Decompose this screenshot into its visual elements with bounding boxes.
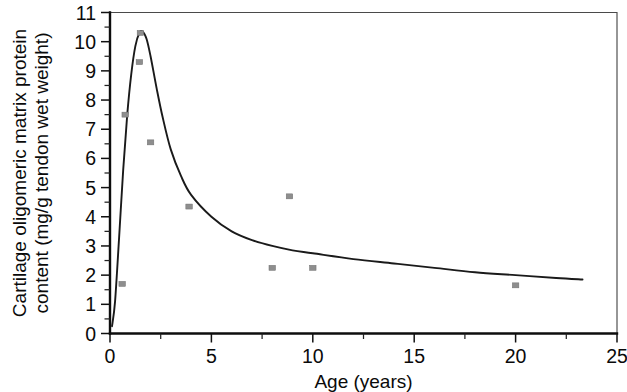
x-axis-tick-labels: 0510152025	[105, 345, 627, 367]
x-axis-tick-label: 25	[606, 345, 627, 367]
data-point-marker	[186, 204, 193, 209]
data-point-marker	[137, 30, 144, 35]
y-axis: 01234567891011	[74, 2, 110, 345]
y-axis-tick-label: 11	[76, 2, 96, 24]
data-layer	[112, 30, 582, 326]
y-axis-tick-label: 1	[85, 293, 96, 315]
y-axis-tick-label: 6	[85, 147, 96, 169]
x-axis-tick-label: 20	[505, 345, 527, 367]
y-axis-tick-label: 9	[85, 60, 96, 82]
data-point-markers	[119, 30, 519, 287]
data-point-marker	[269, 265, 276, 270]
y-axis-tick-label: 7	[85, 118, 96, 140]
x-axis-tick-label: 5	[206, 345, 217, 367]
x-axis-tick-label: 0	[105, 345, 116, 367]
data-point-marker	[136, 60, 143, 65]
y-axis-tick-labels: 01234567891011	[74, 2, 96, 345]
x-axis-ticks	[110, 334, 617, 343]
figure-container: 01234567891011 0510152025 Cartilage olig…	[0, 0, 627, 392]
data-point-marker	[310, 265, 317, 270]
y-axis-ticks	[101, 13, 110, 334]
plot-frame-border	[110, 13, 617, 334]
y-axis-title-line2: content (mg/g tendon wet weight)	[31, 33, 52, 314]
data-point-marker	[512, 283, 519, 288]
trend-curve	[112, 31, 582, 326]
x-axis-tick-label: 15	[403, 345, 425, 367]
x-axis: 0510152025	[105, 334, 627, 367]
y-axis-tick-label: 8	[85, 89, 96, 111]
data-point-marker	[122, 112, 128, 117]
data-point-marker	[286, 194, 293, 199]
y-axis-tick-label: 5	[85, 177, 96, 199]
plot-frame	[110, 13, 617, 334]
x-axis-tick-label: 10	[302, 345, 324, 367]
x-axis-title: Age (years)	[314, 371, 412, 392]
comp-vs-age-chart: 01234567891011 0510152025 Cartilage olig…	[0, 0, 627, 392]
data-point-marker	[147, 140, 154, 145]
y-axis-tick-label: 0	[85, 323, 96, 345]
y-axis-tick-label: 4	[85, 206, 96, 228]
y-axis-tick-label: 3	[85, 235, 96, 257]
data-point-marker	[119, 281, 126, 286]
y-axis-tick-label: 2	[85, 264, 96, 286]
y-axis-title-line1: Cartilage oligomeric matrix protein	[9, 29, 30, 317]
y-axis-tick-label: 10	[74, 31, 96, 53]
